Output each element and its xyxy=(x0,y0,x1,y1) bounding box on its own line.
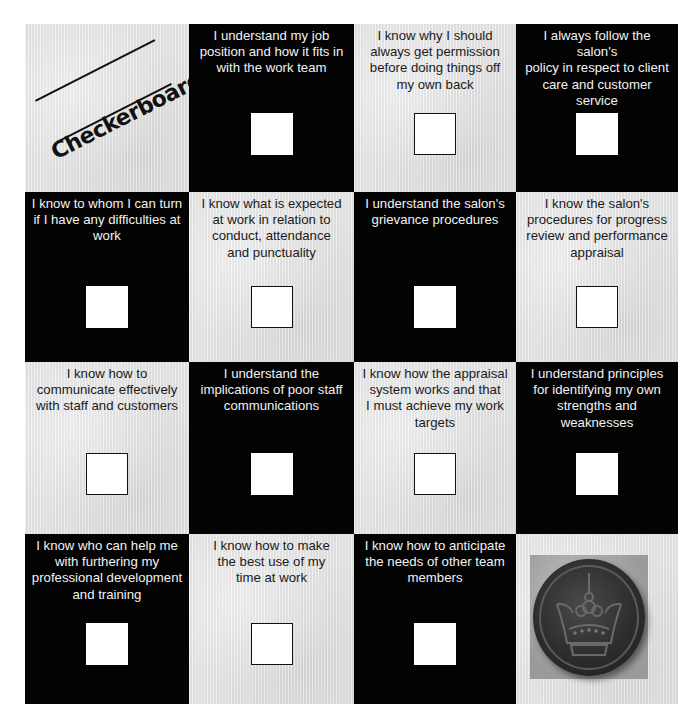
statement-line: for identifying my own xyxy=(522,382,672,398)
statement-line: review and performance xyxy=(522,228,672,244)
statement-line: and training xyxy=(31,587,183,603)
statement-line: I understand principles xyxy=(522,366,672,382)
statement-cell: I know how to anticipatethe needs of oth… xyxy=(354,534,516,704)
statement-cell: I understand my jobposition and how it f… xyxy=(189,24,354,192)
statement-line: my own back xyxy=(360,77,510,93)
statement-line: weaknesses xyxy=(522,415,672,431)
statement-text: I understand theimplications of poor sta… xyxy=(195,366,348,415)
statement-text: I know to whom I can turnif I have any d… xyxy=(31,196,183,245)
tick-box[interactable] xyxy=(251,286,293,328)
statement-cell: I know to whom I can turnif I have any d… xyxy=(25,192,189,362)
statement-text: I know the salon'sprocedures for progres… xyxy=(522,196,672,261)
statement-text: I understand my jobposition and how it f… xyxy=(195,28,348,77)
statement-line: I know the salon's xyxy=(522,196,672,212)
statement-cell: I always follow the salon'spolicy in res… xyxy=(516,24,678,192)
statement-line: care and customer xyxy=(522,77,672,93)
title-underline-top xyxy=(35,39,155,102)
statement-line: with the work team xyxy=(195,60,348,76)
statement-line: I know why I should xyxy=(360,28,510,44)
statement-line: if I have any difficulties at xyxy=(31,212,183,228)
statement-line: at work in relation to xyxy=(195,212,348,228)
statement-line: and punctuality xyxy=(195,245,348,261)
statement-cell: I know why I shouldalways get permission… xyxy=(354,24,516,192)
statement-text: I know how to makethe best use of mytime… xyxy=(195,538,348,587)
statement-line: procedures for progress xyxy=(522,212,672,228)
tick-box[interactable] xyxy=(414,286,456,328)
tick-box[interactable] xyxy=(251,453,293,495)
statement-cell: I know how to makethe best use of mytime… xyxy=(189,534,354,704)
statement-cell: I know what is expectedat work in relati… xyxy=(189,192,354,362)
statement-line: I know what is expected xyxy=(195,196,348,212)
statement-text: I always follow the salon'spolicy in res… xyxy=(522,28,672,109)
tick-box[interactable] xyxy=(86,286,128,328)
badge-photo xyxy=(530,555,648,679)
statement-line: always get permission xyxy=(360,44,510,60)
statement-cell: I know who can help mewith furthering my… xyxy=(25,534,189,704)
statement-line: I know how to anticipate xyxy=(360,538,510,554)
statement-line: members xyxy=(360,570,510,586)
statement-line: I know how to xyxy=(31,366,183,382)
statement-line: work xyxy=(31,228,183,244)
statement-cell: I understand the salon'sgrievance proced… xyxy=(354,192,516,362)
statement-text: I understand the salon'sgrievance proced… xyxy=(360,196,510,228)
statement-line: the needs of other team xyxy=(360,554,510,570)
statement-line: communicate effectively xyxy=(31,382,183,398)
statement-cell: I understand principlesfor identifying m… xyxy=(516,362,678,534)
statement-cell: I know how the appraisalsystem works and… xyxy=(354,362,516,534)
statement-line: time at work xyxy=(195,570,348,586)
statement-text: I know how tocommunicate effectivelywith… xyxy=(31,366,183,415)
statement-line: I know how to make xyxy=(195,538,348,554)
tick-box[interactable] xyxy=(576,286,618,328)
tick-box[interactable] xyxy=(414,453,456,495)
tick-box[interactable] xyxy=(86,453,128,495)
statement-line: service xyxy=(522,93,672,109)
statement-line: I know who can help me xyxy=(31,538,183,554)
statement-line: with staff and customers xyxy=(31,398,183,414)
statement-text: I know how the appraisalsystem works and… xyxy=(360,366,510,431)
statement-line: appraisal xyxy=(522,245,672,261)
title-cell: Checkerboard xyxy=(25,24,189,192)
tick-box[interactable] xyxy=(251,623,293,665)
statement-text: I understand principlesfor identifying m… xyxy=(522,366,672,431)
statement-line: with furthering my xyxy=(31,554,183,570)
statement-cell: I know how tocommunicate effectivelywith… xyxy=(25,362,189,534)
statement-line: I understand my job xyxy=(195,28,348,44)
tick-box[interactable] xyxy=(576,453,618,495)
statement-line: policy in respect to client xyxy=(522,60,672,76)
statement-cell: I understand theimplications of poor sta… xyxy=(189,362,354,534)
tick-box[interactable] xyxy=(576,113,618,155)
tick-box[interactable] xyxy=(251,113,293,155)
statement-line: conduct, attendance xyxy=(195,228,348,244)
page-title: Checkerboard xyxy=(47,67,189,165)
statement-line: implications of poor staff xyxy=(195,382,348,398)
statement-line: position and how it fits in xyxy=(195,44,348,60)
statement-text: I know why I shouldalways get permission… xyxy=(360,28,510,93)
statement-line: grievance procedures xyxy=(360,212,510,228)
statement-line: professional development xyxy=(31,570,183,586)
checkerboard-grid: CheckerboardI understand my jobposition … xyxy=(25,24,678,704)
statement-text: I know what is expectedat work in relati… xyxy=(195,196,348,261)
tick-box[interactable] xyxy=(414,113,456,155)
statement-line: before doing things off xyxy=(360,60,510,76)
tick-box[interactable] xyxy=(414,623,456,665)
crown-badge-icon xyxy=(533,559,645,676)
statement-text: I know who can help mewith furthering my… xyxy=(31,538,183,603)
statement-line: I understand the xyxy=(195,366,348,382)
statement-line: I must achieve my work xyxy=(360,398,510,414)
statement-line: I understand the salon's xyxy=(360,196,510,212)
badge-image-cell xyxy=(516,534,678,704)
statement-line: system works and that xyxy=(360,382,510,398)
statement-line: targets xyxy=(360,415,510,431)
tick-box[interactable] xyxy=(86,623,128,665)
statement-line: I know to whom I can turn xyxy=(31,196,183,212)
statement-line: communications xyxy=(195,398,348,414)
statement-line: I always follow the salon's xyxy=(522,28,672,60)
statement-text: I know how to anticipatethe needs of oth… xyxy=(360,538,510,587)
statement-line: strengths and xyxy=(522,398,672,414)
statement-cell: I know the salon'sprocedures for progres… xyxy=(516,192,678,362)
statement-line: the best use of my xyxy=(195,554,348,570)
statement-line: I know how the appraisal xyxy=(360,366,510,382)
